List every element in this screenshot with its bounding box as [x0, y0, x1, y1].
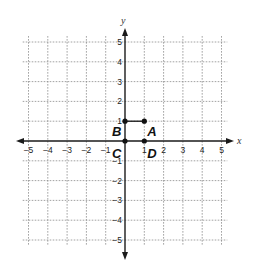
coordinate-plane: x y −5−4−3−2−112345−5−4−3−2−112345 ABCD [0, 0, 260, 270]
y-tick-label: −5 [112, 235, 122, 245]
point-C [122, 138, 127, 143]
x-tick-label: −2 [82, 145, 92, 155]
y-axis-up-arrow-icon [122, 28, 128, 36]
point-label-B: B [112, 124, 121, 139]
x-tick-label: 5 [219, 145, 224, 155]
y-axis-label: y [120, 15, 126, 26]
x-tick-label: −1 [101, 145, 111, 155]
y-tick-label: −4 [112, 215, 122, 225]
y-tick-label: −2 [112, 176, 122, 186]
x-axis-label: x [236, 135, 242, 146]
y-tick-label: 2 [117, 96, 122, 106]
y-tick-label: −3 [112, 195, 122, 205]
x-axis-left-arrow-icon [16, 138, 24, 144]
x-tick-label: 3 [181, 145, 186, 155]
x-tick-label: 1 [142, 145, 147, 155]
point-label-A: A [146, 124, 156, 139]
x-tick-label: −5 [24, 145, 34, 155]
point-label-C: C [112, 146, 122, 161]
axes: x y [16, 15, 242, 260]
point-B [122, 119, 127, 124]
plotted-points: ABCD [112, 119, 157, 161]
x-axis-right-arrow-icon [226, 138, 234, 144]
point-label-D: D [147, 146, 157, 161]
y-tick-label: 5 [117, 37, 122, 47]
point-A [142, 119, 147, 124]
y-tick-label: 3 [117, 77, 122, 87]
y-tick-label: 4 [117, 57, 122, 67]
point-D [142, 138, 147, 143]
y-axis-down-arrow-icon [122, 252, 128, 260]
x-tick-label: 4 [200, 145, 205, 155]
coordinate-grid-svg: x y −5−4−3−2−112345−5−4−3−2−112345 ABCD [0, 0, 260, 270]
x-tick-label: −4 [43, 145, 53, 155]
x-tick-label: 2 [161, 145, 166, 155]
x-tick-label: −3 [62, 145, 72, 155]
